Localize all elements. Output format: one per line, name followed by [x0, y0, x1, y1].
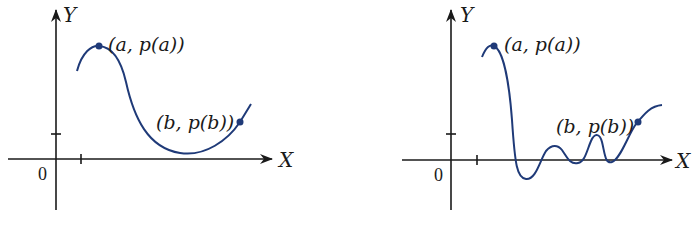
y-axis-label: Y — [63, 3, 78, 27]
point-a-label: (a, p(a)) — [108, 33, 185, 55]
point-b — [237, 119, 244, 126]
polynomial-curve — [482, 45, 662, 179]
x-axis-label: X — [674, 149, 691, 173]
y-axis-label: Y — [460, 3, 475, 27]
point-a — [491, 43, 498, 50]
point-a-label: (a, p(a)) — [504, 33, 581, 55]
left-graph: Y X 0 (a, p(a)) (b, p(b)) — [8, 3, 294, 210]
right-graph: Y X 0 (a, p(a)) (b, p(b)) — [402, 3, 691, 210]
figure: Y X 0 (a, p(a)) (b, p(b)) Y X 0 (a, p(a)… — [0, 0, 694, 225]
point-b-label: (b, p(b)) — [156, 111, 234, 133]
point-b — [635, 119, 642, 126]
polynomial-curve — [77, 46, 251, 154]
point-b-label: (b, p(b)) — [556, 115, 634, 137]
x-axis-label: X — [277, 148, 294, 172]
point-a — [96, 43, 103, 50]
origin-label: 0 — [434, 165, 443, 185]
origin-label: 0 — [38, 164, 47, 184]
